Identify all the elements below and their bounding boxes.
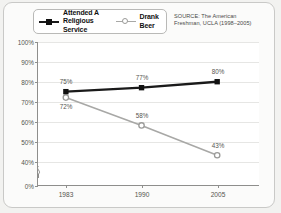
ytick-label-90: 90% [21, 59, 34, 66]
point-label-religious-1983: 75% [60, 78, 73, 85]
data-point-religious-1983 [63, 89, 68, 94]
data-point-religious-2005 [215, 79, 220, 84]
legend-label-religious: Attended A Religious Service [63, 9, 107, 35]
ytick-label-80: 80% [21, 79, 34, 86]
xtick-label-2005: 2005 [211, 191, 226, 198]
ytick-label-100: 100% [18, 39, 34, 46]
point-label-beer-2005: 43% [212, 142, 225, 149]
data-point-religious-1990 [139, 85, 144, 90]
xtick-label-1983: 1983 [59, 191, 74, 198]
data-point-beer-2005 [215, 153, 220, 158]
point-label-religious-1990: 77% [136, 74, 149, 81]
ytick-label-50: 50% [21, 139, 34, 146]
legend-label-beer: Drank Beer [140, 13, 167, 30]
chart-figure: Attended A Religious Service Drank Beer … [0, 0, 281, 213]
ytick-label-70: 70% [21, 99, 34, 106]
point-label-beer-1990: 58% [136, 112, 149, 119]
legend-item-religious: Attended A Religious Service [34, 10, 107, 33]
source-note: SOURCE: The American Freshman, UCLA (199… [174, 13, 274, 28]
data-point-beer-1983 [63, 95, 68, 100]
chart-legend: Attended A Religious Service Drank Beer [33, 9, 167, 34]
legend-line-square-icon [39, 17, 59, 27]
legend-line-circle-icon [116, 17, 136, 27]
xtick-label-1990: 1990 [135, 191, 150, 198]
ytick-label-0: 0% [25, 183, 34, 190]
point-label-religious-2005: 80% [212, 68, 225, 75]
ytick-label-60: 60% [21, 119, 34, 126]
point-label-beer-1983: 72% [60, 103, 73, 110]
data-point-beer-1990 [139, 123, 144, 128]
ytick-label-40: 40% [21, 159, 34, 166]
plot-area: 100% 90% 80% 70% 60% 50% 40% 0% 1983 199… [37, 42, 259, 186]
legend-item-beer: Drank Beer [107, 10, 167, 33]
